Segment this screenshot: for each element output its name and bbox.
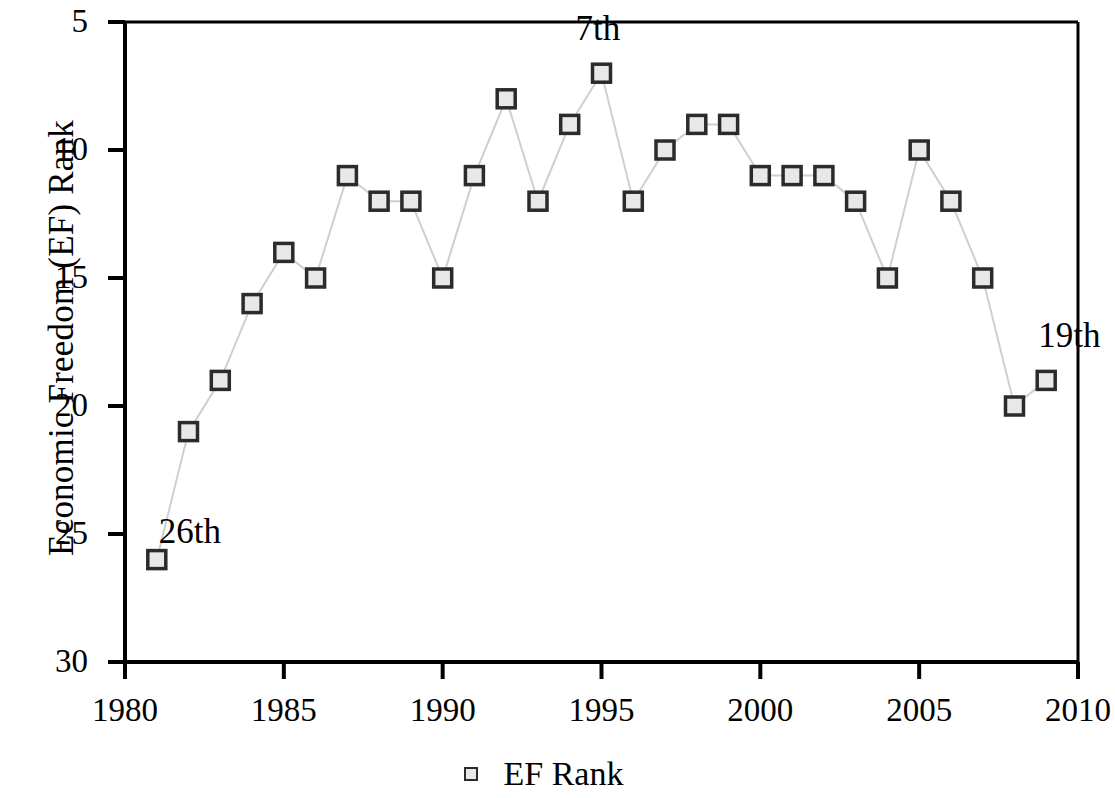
open-square-marker-icon	[464, 767, 478, 781]
y-axis-tick-label: 30	[55, 645, 88, 678]
chart-legend: EF Rank	[0, 752, 1087, 792]
data-point-marker	[243, 295, 261, 313]
data-point-marker	[910, 141, 928, 159]
data-point-marker	[561, 115, 579, 133]
data-point-marker	[180, 423, 198, 441]
data-point-marker	[1006, 397, 1024, 415]
point-annotation: 7th	[576, 11, 621, 46]
data-point-marker	[434, 269, 452, 287]
data-point-marker	[783, 167, 801, 185]
y-axis-tick-label: 10	[55, 133, 88, 166]
x-axis-tick-label: 1985	[224, 694, 344, 727]
data-point-marker	[942, 192, 960, 210]
data-point-marker	[402, 192, 420, 210]
data-point-marker	[656, 141, 674, 159]
point-annotation: 26th	[159, 514, 221, 549]
x-axis-tick-label: 2010	[1018, 694, 1115, 727]
y-axis-tick-label: 15	[55, 261, 88, 294]
data-point-marker	[211, 371, 229, 389]
data-point-marker	[338, 167, 356, 185]
x-axis-tick-label: 1995	[542, 694, 662, 727]
x-axis-tick-label: 1980	[65, 694, 185, 727]
data-point-marker	[974, 269, 992, 287]
data-point-marker	[497, 90, 515, 108]
y-axis-tick-label: 25	[55, 517, 88, 550]
data-point-marker	[847, 192, 865, 210]
data-point-marker	[720, 115, 738, 133]
data-point-marker	[624, 192, 642, 210]
data-point-marker	[751, 167, 769, 185]
data-point-marker	[815, 167, 833, 185]
data-point-marker	[275, 243, 293, 261]
data-point-marker	[307, 269, 325, 287]
data-point-marker	[148, 551, 166, 569]
y-axis-tick-label: 20	[55, 389, 88, 422]
legend-entry-label: EF Rank	[504, 756, 624, 792]
data-point-marker	[370, 192, 388, 210]
data-point-marker	[1037, 371, 1055, 389]
point-annotation: 19th	[1038, 318, 1100, 353]
data-point-marker	[878, 269, 896, 287]
data-point-marker	[593, 64, 611, 82]
data-point-marker	[465, 167, 483, 185]
data-point-marker	[529, 192, 547, 210]
x-axis-tick-label: 2005	[859, 694, 979, 727]
data-point-marker	[688, 115, 706, 133]
legend-entry: EF Rank	[464, 756, 624, 792]
y-axis-title: Economic Freedom (EF) Rank	[42, 28, 82, 648]
x-axis-tick-label: 2000	[700, 694, 820, 727]
y-axis-tick-label: 5	[72, 5, 89, 38]
x-axis-tick-label: 1990	[383, 694, 503, 727]
